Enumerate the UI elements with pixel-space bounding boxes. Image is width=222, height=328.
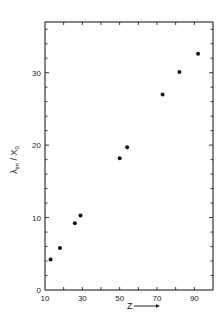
data-point xyxy=(73,221,77,225)
x-tick-label: 70 xyxy=(153,294,162,303)
x-tick-labels: 1030507090 xyxy=(41,294,200,303)
arrowhead-icon xyxy=(156,304,160,308)
data-point xyxy=(58,246,62,250)
y-axis-label-text: λint / X0 xyxy=(9,145,20,173)
x-tick-label: 30 xyxy=(78,294,87,303)
x-tick-label: 10 xyxy=(41,294,50,303)
plot-border xyxy=(45,22,213,290)
data-point xyxy=(125,145,129,149)
data-point xyxy=(118,156,122,160)
axis-ticks xyxy=(45,22,213,290)
y-tick-label: 20 xyxy=(32,141,41,150)
data-point xyxy=(161,92,165,96)
data-point xyxy=(196,52,200,56)
x-tick-label: 90 xyxy=(190,294,199,303)
x-axis-label-text: Z xyxy=(127,301,133,311)
y-axis-label: λint / X0 xyxy=(9,145,20,173)
x-tick-label: 50 xyxy=(115,294,124,303)
data-point xyxy=(49,258,53,262)
plot-frame xyxy=(45,22,213,290)
data-point xyxy=(177,70,181,74)
y-tick-labels: 0102030 xyxy=(32,69,41,295)
y-tick-label: 10 xyxy=(32,214,41,223)
scatter-chart: 1030507090 0102030 Z λint / X0 xyxy=(0,0,222,328)
y-tick-label: 30 xyxy=(32,69,41,78)
data-points xyxy=(49,52,200,262)
y-tick-label: 0 xyxy=(37,286,42,295)
data-point xyxy=(78,213,82,217)
